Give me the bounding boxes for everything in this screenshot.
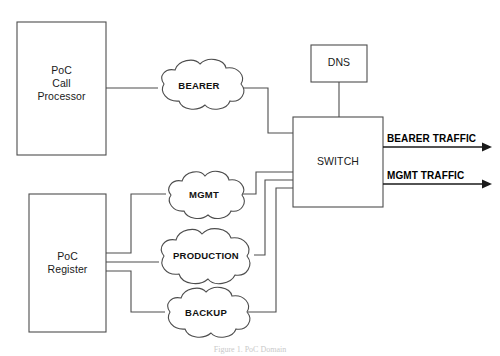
node-production-cloud [161,229,249,284]
arrowhead-mgmt-traffic [482,180,492,189]
node-backup-cloud [168,287,250,337]
link-production-switch [254,180,293,255]
link-backup-switch [248,188,293,312]
node-poc-call-processor [17,22,106,155]
node-dns [311,45,367,82]
link-register-backup [106,271,165,312]
node-switch [293,117,383,207]
node-mgmt-cloud [169,171,244,218]
diagram-canvas [0,0,500,356]
node-poc-register [29,194,106,332]
figure-caption: Figure 1. PoC Domain [0,345,500,354]
link-mgmt-switch [242,172,293,194]
link-register-mgmt [106,194,166,253]
arrowhead-bearer-traffic [482,143,492,152]
network-diagram: PoC Call Processor PoC Register DNS SWIT… [0,0,500,356]
node-bearer-cloud [162,59,244,109]
link-bearer-switch [241,88,293,133]
